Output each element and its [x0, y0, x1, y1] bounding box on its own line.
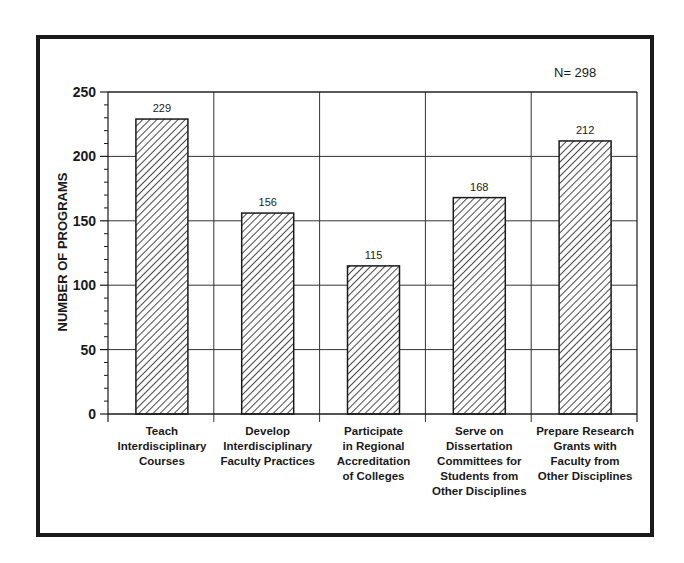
bar [242, 213, 294, 414]
x-category-label: Participatein RegionalAccreditationof Co… [319, 424, 429, 484]
bar-value-label: 156 [259, 196, 277, 208]
bar [136, 119, 188, 414]
y-tick-label: 50 [56, 342, 96, 358]
bars [136, 119, 611, 414]
y-axis-label: NUMBER OF PROGRAMS [55, 173, 70, 332]
x-category-label: TeachInterdisciplinaryCourses [107, 424, 217, 469]
x-category-label: DevelopInterdisciplinaryFaculty Practice… [213, 424, 323, 469]
y-tick-label: 100 [56, 277, 96, 293]
bar [453, 198, 505, 414]
y-tick-label: 200 [56, 148, 96, 164]
bar-value-label: 168 [470, 181, 488, 193]
y-tick-label: 250 [56, 84, 96, 100]
bar-value-label: 229 [153, 102, 171, 114]
y-tick-label: 150 [56, 213, 96, 229]
bar [348, 266, 400, 414]
sample-size-annotation: N= 298 [554, 65, 596, 80]
bar-value-label: 115 [365, 249, 383, 261]
x-category-label: Serve onDissertationCommittees forStuden… [424, 424, 534, 499]
bar [559, 141, 611, 414]
bar-value-label: 212 [576, 124, 594, 136]
x-category-label: Prepare ResearchGrants withFaculty fromO… [530, 424, 640, 484]
y-tick-label: 0 [56, 406, 96, 422]
